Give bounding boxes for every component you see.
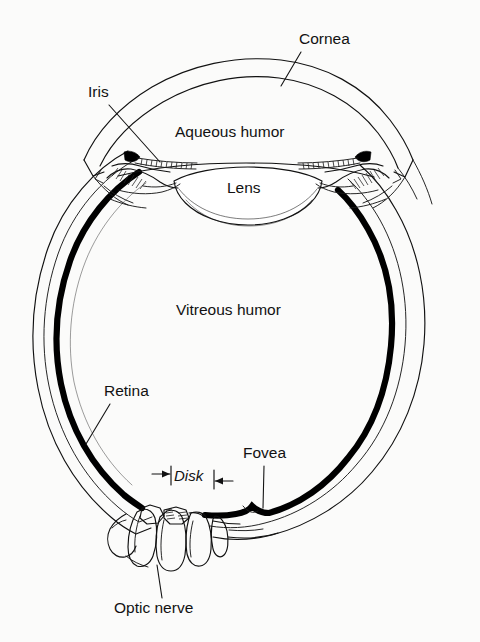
eye-cross-section-drawing: Cornea Iris Aqueous humor Lens Vitreous … (0, 0, 480, 642)
label-aqueous-humor: Aqueous humor (175, 123, 284, 140)
label-iris: Iris (88, 83, 109, 100)
label-optic-nerve: Optic nerve (114, 599, 193, 616)
label-cornea: Cornea (299, 30, 350, 47)
label-vitreous-humor: Vitreous humor (176, 301, 281, 318)
label-lens: Lens (227, 179, 261, 196)
label-fovea: Fovea (243, 444, 286, 461)
label-retina: Retina (104, 382, 149, 399)
label-disk: Disk (174, 467, 205, 484)
eye-anatomy-diagram: Cornea Iris Aqueous humor Lens Vitreous … (0, 0, 480, 642)
diagram-background (0, 0, 480, 642)
